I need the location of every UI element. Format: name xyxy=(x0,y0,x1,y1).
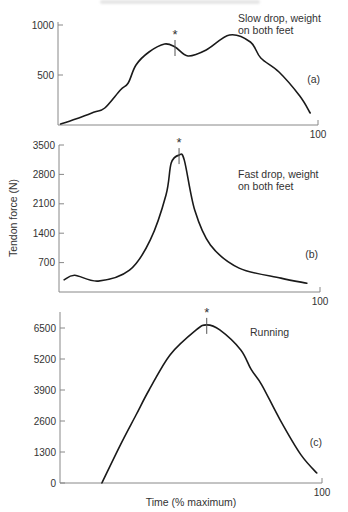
chart-b-ytick-label: 1400 xyxy=(33,228,56,239)
x-axis-label: Time (% maximum) xyxy=(146,496,237,508)
chart-a-force-curve xyxy=(61,35,311,124)
chart-a-axes xyxy=(58,22,318,125)
chart-b-ytick-label: 2100 xyxy=(33,198,56,209)
chart-a-title: Slow drop, weight xyxy=(238,12,321,24)
chart-c-ytick-label: 3900 xyxy=(34,385,57,396)
chart-a-title: on both feet xyxy=(238,24,294,36)
chart-b-peak-asterisk: * xyxy=(177,135,182,150)
tendon-force-figure: 5001000100*Slow drop, weighton both feet… xyxy=(0,0,348,512)
chart-a-peak-asterisk: * xyxy=(172,27,177,42)
chart-b-ytick-label: 700 xyxy=(38,257,55,268)
chart-c-force-curve xyxy=(102,325,317,483)
chart-b-title: Fast drop, weight xyxy=(238,168,319,180)
chart-c-ytick-label: 1300 xyxy=(34,447,57,458)
chart-a-xtick-label: 100 xyxy=(310,129,327,140)
chart-c-ytick-label: 0 xyxy=(50,478,56,489)
chart-a-ytick-label: 1000 xyxy=(32,20,55,31)
chart-a-ytick-label: 500 xyxy=(37,70,54,81)
y-axis-label: Tendon force (N) xyxy=(7,179,19,257)
chart-c-title: Running xyxy=(250,326,289,338)
chart-c-ytick-label: 5200 xyxy=(34,354,57,365)
chart-c-ytick-label: 2600 xyxy=(34,416,57,427)
chart-a-panel-label: (a) xyxy=(307,73,320,85)
chart-c-xtick-label: 100 xyxy=(314,487,331,498)
chart-c-panel-label: (c) xyxy=(310,436,322,448)
chart-b-ytick-label: 2800 xyxy=(33,169,56,180)
chart-b-panel-label: (b) xyxy=(305,248,318,260)
chart-c-ytick-label: 6500 xyxy=(34,323,57,334)
chart-b-ytick-label: 3500 xyxy=(33,140,56,151)
chart-b-xtick-label: 100 xyxy=(312,296,329,307)
chart-b-title: on both feet xyxy=(238,180,294,192)
chart-c-peak-asterisk: * xyxy=(204,305,209,320)
